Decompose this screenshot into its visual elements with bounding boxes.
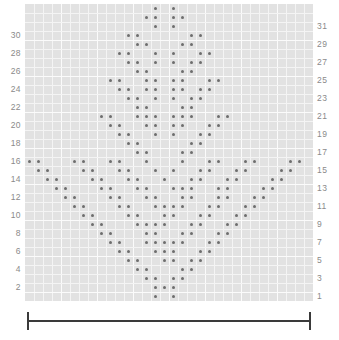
chart-dot[interactable] xyxy=(118,169,121,172)
chart-dot[interactable] xyxy=(145,79,148,82)
chart-dot[interactable] xyxy=(199,223,202,226)
chart-dot[interactable] xyxy=(172,25,175,28)
chart-dot[interactable] xyxy=(244,214,247,217)
chart-dot[interactable] xyxy=(136,61,139,64)
chart-dot[interactable] xyxy=(199,61,202,64)
chart-dot[interactable] xyxy=(226,178,229,181)
chart-dot[interactable] xyxy=(181,70,184,73)
chart-dot[interactable] xyxy=(145,151,148,154)
chart-dot[interactable] xyxy=(199,259,202,262)
chart-dot[interactable] xyxy=(181,187,184,190)
chart-dot[interactable] xyxy=(163,214,166,217)
chart-dot[interactable] xyxy=(118,124,121,127)
chart-dot[interactable] xyxy=(181,196,184,199)
chart-dot[interactable] xyxy=(154,7,157,10)
chart-dot[interactable] xyxy=(145,241,148,244)
chart-dot[interactable] xyxy=(172,7,175,10)
chart-dot[interactable] xyxy=(127,259,130,262)
chart-dot[interactable] xyxy=(127,205,130,208)
chart-dot[interactable] xyxy=(73,205,76,208)
chart-dot[interactable] xyxy=(208,214,211,217)
chart-dot[interactable] xyxy=(145,187,148,190)
chart-dot[interactable] xyxy=(172,97,175,100)
chart-dot[interactable] xyxy=(217,196,220,199)
chart-dot[interactable] xyxy=(145,115,148,118)
chart-dot[interactable] xyxy=(271,178,274,181)
chart-dot[interactable] xyxy=(208,52,211,55)
chart-dot[interactable] xyxy=(154,232,157,235)
chart-dot[interactable] xyxy=(190,187,193,190)
chart-dot[interactable] xyxy=(289,169,292,172)
chart-dot[interactable] xyxy=(136,214,139,217)
chart-dot[interactable] xyxy=(109,241,112,244)
chart-dot[interactable] xyxy=(199,133,202,136)
chart-dot[interactable] xyxy=(136,223,139,226)
chart-dot[interactable] xyxy=(172,295,175,298)
chart-dot[interactable] xyxy=(136,151,139,154)
chart-dot[interactable] xyxy=(163,223,166,226)
chart-dot[interactable] xyxy=(154,25,157,28)
chart-dot[interactable] xyxy=(100,223,103,226)
chart-dot[interactable] xyxy=(91,169,94,172)
chart-dot[interactable] xyxy=(181,268,184,271)
chart-dot[interactable] xyxy=(154,115,157,118)
chart-dot[interactable] xyxy=(190,34,193,37)
chart-dot[interactable] xyxy=(118,205,121,208)
chart-dot[interactable] xyxy=(37,160,40,163)
chart-dot[interactable] xyxy=(172,79,175,82)
chart-dot[interactable] xyxy=(253,196,256,199)
chart-dot[interactable] xyxy=(136,178,139,181)
chart-dot[interactable] xyxy=(127,178,130,181)
chart-dot[interactable] xyxy=(127,61,130,64)
chart-dot[interactable] xyxy=(181,79,184,82)
chart-dot[interactable] xyxy=(172,169,175,172)
chart-dot[interactable] xyxy=(145,268,148,271)
chart-dot[interactable] xyxy=(190,97,193,100)
chart-dot[interactable] xyxy=(208,88,211,91)
chart-dot[interactable] xyxy=(208,241,211,244)
chart-dot[interactable] xyxy=(154,295,157,298)
chart-dot[interactable] xyxy=(217,124,220,127)
chart-dot[interactable] xyxy=(172,241,175,244)
chart-dot[interactable] xyxy=(226,196,229,199)
chart-dot[interactable] xyxy=(136,115,139,118)
chart-dot[interactable] xyxy=(136,268,139,271)
chart-dot[interactable] xyxy=(127,142,130,145)
chart-dot[interactable] xyxy=(46,178,49,181)
chart-dot[interactable] xyxy=(208,250,211,253)
chart-dot[interactable] xyxy=(226,223,229,226)
chart-dot[interactable] xyxy=(46,169,49,172)
chart-dot[interactable] xyxy=(172,124,175,127)
chart-dot[interactable] xyxy=(136,43,139,46)
chart-dot[interactable] xyxy=(145,223,148,226)
chart-dot[interactable] xyxy=(82,160,85,163)
chart-dot[interactable] xyxy=(208,133,211,136)
chart-dot[interactable] xyxy=(136,70,139,73)
chart-dot[interactable] xyxy=(154,52,157,55)
chart-dot[interactable] xyxy=(145,124,148,127)
chart-dot[interactable] xyxy=(262,196,265,199)
chart-dot[interactable] xyxy=(145,160,148,163)
chart-dot[interactable] xyxy=(181,124,184,127)
chart-dot[interactable] xyxy=(190,142,193,145)
chart-dot[interactable] xyxy=(172,259,175,262)
chart-dot[interactable] xyxy=(190,70,193,73)
chart-dot[interactable] xyxy=(172,133,175,136)
chart-dot[interactable] xyxy=(154,286,157,289)
chart-dot[interactable] xyxy=(235,169,238,172)
chart-dot[interactable] xyxy=(190,196,193,199)
chart-dot[interactable] xyxy=(172,286,175,289)
chart-dot[interactable] xyxy=(244,205,247,208)
chart-dot[interactable] xyxy=(181,115,184,118)
chart-dot[interactable] xyxy=(289,160,292,163)
chart-dot[interactable] xyxy=(118,88,121,91)
chart-dot[interactable] xyxy=(64,187,67,190)
chart-dot[interactable] xyxy=(28,160,31,163)
chart-dot[interactable] xyxy=(217,187,220,190)
chart-dot[interactable] xyxy=(82,169,85,172)
chart-dot[interactable] xyxy=(181,88,184,91)
chart-dot[interactable] xyxy=(199,34,202,37)
chart-dot[interactable] xyxy=(190,259,193,262)
chart-dot[interactable] xyxy=(154,196,157,199)
chart-dot[interactable] xyxy=(163,241,166,244)
